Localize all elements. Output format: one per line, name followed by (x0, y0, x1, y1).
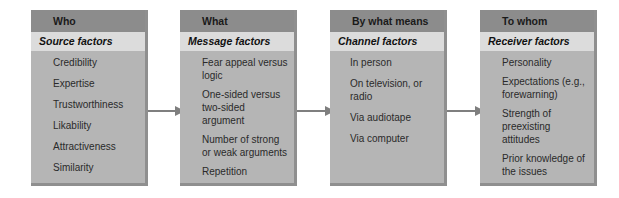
box-header-what: What (180, 10, 294, 32)
arrow-means-to-whom (447, 110, 481, 112)
box-subheader-message: Message factors (180, 32, 294, 51)
list-item: Likability (53, 119, 145, 132)
list-item: Similarity (53, 161, 145, 174)
list-item: Expertise (53, 77, 145, 90)
arrow-what-to-means (297, 110, 331, 112)
list-item: On television, or radio (350, 77, 444, 103)
box-header-who: Who (31, 10, 145, 32)
list-item: Repetition (202, 165, 288, 178)
list-item: Via audiotape (350, 111, 444, 124)
box-subheader-source: Source factors (31, 32, 145, 51)
list-item: One-sided versus two-sided argument (202, 88, 288, 127)
list-item: Fear appeal versus logic (202, 56, 288, 82)
message-factors-box: What Message factors Fear appeal versus … (180, 10, 297, 186)
receiver-factors-box: To whom Receiver factors Personality Exp… (480, 10, 597, 186)
list-item: Via computer (350, 132, 444, 145)
list-item: In person (350, 56, 444, 69)
source-factors-box: Who Source factors Credibility Expertise… (31, 10, 148, 186)
box-header-by-what-means: By what means (330, 10, 444, 32)
channel-factors-list: In person On television, or radio Via au… (330, 51, 444, 145)
list-item: Prior knowledge of the issues (502, 152, 588, 178)
list-item: Expectations (e.g., forewarning) (502, 75, 588, 101)
list-item: Personality (502, 56, 588, 69)
channel-factors-box: By what means Channel factors In person … (330, 10, 447, 186)
source-factors-list: Credibility Expertise Trustworthiness Li… (31, 51, 145, 174)
list-item: Number of strong or weak arguments (202, 133, 288, 159)
arrow-who-to-what (148, 110, 181, 112)
list-item: Strength of preexisting attitudes (502, 107, 588, 146)
receiver-factors-list: Personality Expectations (e.g., forewarn… (480, 51, 594, 178)
box-subheader-channel: Channel factors (330, 32, 444, 51)
list-item: Trustworthiness (53, 98, 145, 111)
list-item: Credibility (53, 56, 145, 69)
list-item: Attractiveness (53, 140, 145, 153)
message-factors-list: Fear appeal versus logic One-sided versu… (180, 51, 294, 178)
box-header-to-whom: To whom (480, 10, 594, 32)
box-subheader-receiver: Receiver factors (480, 32, 594, 51)
